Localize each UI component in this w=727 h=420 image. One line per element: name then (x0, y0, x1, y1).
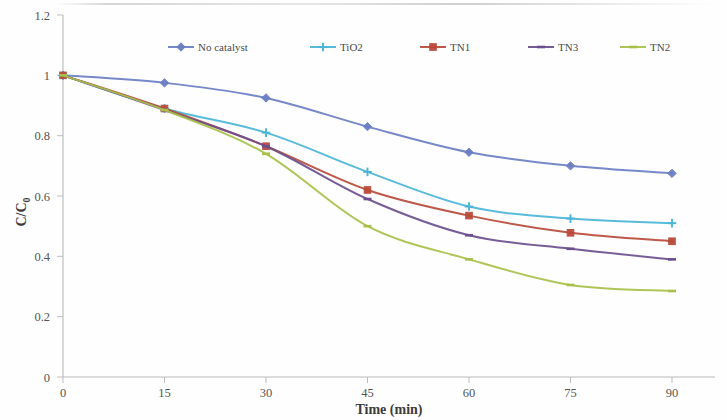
y-axis-ticks (57, 15, 63, 377)
legend-item-tn1[interactable]: TN1 (420, 41, 470, 53)
series-layer (59, 71, 677, 291)
data-point (668, 219, 677, 228)
x-axis-tick-labels: 0153045607590 (60, 386, 678, 400)
legend-marker (430, 44, 437, 51)
legend-label: TN3 (558, 41, 579, 53)
data-point (466, 212, 473, 219)
legend-item-tn2[interactable]: TN2 (620, 41, 670, 53)
series-tn2 (59, 75, 676, 291)
legend-label: No catalyst (198, 41, 248, 53)
x-tick-label: 30 (260, 386, 273, 400)
data-point (262, 128, 271, 137)
x-tick-label: 0 (60, 386, 66, 400)
series-line (63, 75, 672, 291)
y-axis-title-main: C/C (14, 202, 29, 226)
x-tick-label: 75 (564, 386, 577, 400)
data-point (669, 238, 676, 245)
data-point (668, 169, 676, 177)
data-point (364, 187, 371, 194)
y-tick-label: 0 (44, 371, 50, 385)
y-axis-title: C/C0 (14, 197, 32, 226)
series-tio2 (59, 71, 677, 227)
y-tick-label: 0.6 (34, 190, 50, 204)
x-tick-label: 90 (666, 386, 679, 400)
series-line (63, 75, 672, 223)
y-axis-title-subscript: 0 (21, 197, 32, 202)
data-point (363, 122, 371, 130)
data-point (465, 202, 474, 211)
y-axis-title-text: C/C0 (14, 197, 32, 226)
legend-label: TN2 (650, 41, 670, 53)
chart-legend: No catalystTiO2TN1TN3TN2 (168, 41, 670, 53)
legend-marker (177, 43, 185, 51)
data-point (566, 162, 574, 170)
line-chart: 00.20.40.60.811.2 0153045607590 C/C0 Tim… (0, 0, 727, 420)
legend-item-tio2[interactable]: TiO2 (310, 41, 363, 53)
chart-container: 00.20.40.60.811.2 0153045607590 C/C0 Tim… (0, 0, 727, 420)
series-line (63, 75, 672, 241)
y-tick-label: 1.2 (34, 9, 50, 23)
data-point (160, 79, 168, 87)
y-tick-label: 0.8 (34, 129, 50, 143)
data-point (262, 94, 270, 102)
data-point (566, 214, 575, 223)
y-tick-label: 0.2 (34, 310, 50, 324)
data-point (567, 230, 574, 237)
legend-marker (319, 43, 328, 52)
data-point (465, 148, 473, 156)
x-axis-ticks (63, 377, 672, 383)
legend-item-tn3[interactable]: TN3 (528, 41, 579, 53)
data-point (363, 168, 372, 177)
y-axis-tick-labels: 00.20.40.60.811.2 (34, 9, 50, 385)
legend-item-no-catalyst[interactable]: No catalyst (168, 41, 248, 53)
y-tick-label: 0.4 (34, 250, 50, 264)
y-tick-label: 1 (44, 69, 50, 83)
legend-label: TN1 (450, 41, 470, 53)
x-tick-label: 45 (361, 386, 374, 400)
x-axis-title: Time (min) (355, 402, 422, 418)
x-tick-label: 60 (463, 386, 476, 400)
series-no-catalyst (59, 71, 676, 177)
x-tick-label: 15 (158, 386, 171, 400)
legend-label: TiO2 (340, 41, 363, 53)
